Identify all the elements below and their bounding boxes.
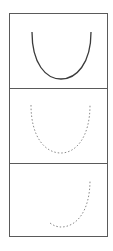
figure-frame <box>9 13 108 237</box>
panel-partial-dotted-curve <box>10 163 107 236</box>
panel-solid-parabola <box>10 14 107 88</box>
panel-dotted-parabola <box>10 88 107 163</box>
solid-parabola-curve <box>10 14 107 88</box>
partial-dotted-curve <box>10 164 107 236</box>
dotted-parabola-curve <box>10 89 107 163</box>
